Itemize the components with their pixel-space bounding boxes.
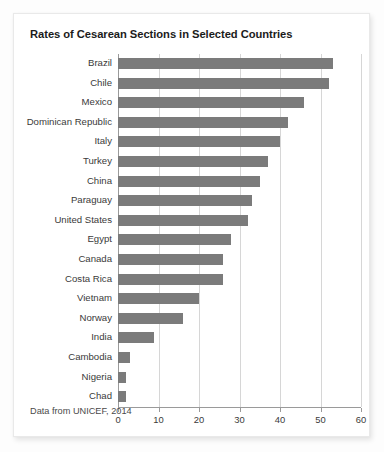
bar <box>118 293 199 304</box>
category-label: Canada <box>78 252 112 266</box>
bar <box>118 391 126 402</box>
x-tick-50 <box>321 408 322 412</box>
category-label: India <box>91 330 112 344</box>
x-tick-30 <box>240 408 241 412</box>
bar-row: Chad <box>118 387 361 407</box>
x-tick-label: 60 <box>356 414 366 425</box>
bar-row: Nigeria <box>118 368 361 388</box>
category-label: Mexico <box>82 95 112 109</box>
category-label: Chile <box>90 76 112 90</box>
bar <box>118 78 329 89</box>
bar-row: Mexico <box>118 93 361 113</box>
x-tick-10 <box>159 408 160 412</box>
bar <box>118 97 304 108</box>
bar-row: United States <box>118 211 361 231</box>
bar-row: Dominican Republic <box>118 113 361 133</box>
plot-area: BrazilChileMexicoDominican RepublicItaly… <box>118 54 361 409</box>
x-tick-60 <box>361 408 362 412</box>
gridline-60 <box>361 54 362 407</box>
category-label: United States <box>54 213 112 227</box>
bar-row: China <box>118 172 361 192</box>
source-note: Data from UNICEF, 2014 <box>30 406 132 416</box>
bar <box>118 176 260 187</box>
bar <box>118 156 268 167</box>
bar <box>118 58 333 69</box>
bar-row: Canada <box>118 250 361 270</box>
x-tick-40 <box>280 408 281 412</box>
category-label: Egypt <box>87 232 112 246</box>
page-title: Rates of Cesarean Sections in Selected C… <box>30 28 292 40</box>
bar-series: BrazilChileMexicoDominican RepublicItaly… <box>118 54 361 407</box>
bar <box>118 136 280 147</box>
category-label: Brazil <box>88 56 112 70</box>
category-label: Norway <box>79 311 112 325</box>
category-label: Nigeria <box>82 370 112 384</box>
bar-row: Chile <box>118 74 361 94</box>
bar-row: Cambodia <box>118 348 361 368</box>
x-tick-label: 30 <box>234 414 244 425</box>
bar-row: Turkey <box>118 152 361 172</box>
bar <box>118 372 126 383</box>
bar <box>118 195 252 206</box>
category-label: Paraguay <box>71 193 112 207</box>
bar <box>118 215 248 226</box>
page-root: Rates of Cesarean Sections in Selected C… <box>0 0 384 452</box>
bar-row: Costa Rica <box>118 270 361 290</box>
bar-row: India <box>118 328 361 348</box>
bar-row: Italy <box>118 132 361 152</box>
bar <box>118 274 223 285</box>
category-label: Cambodia <box>68 350 112 364</box>
bar <box>118 234 231 245</box>
category-label: Italy <box>94 134 112 148</box>
bar-row: Vietnam <box>118 289 361 309</box>
bar <box>118 352 130 363</box>
bar-row: Norway <box>118 309 361 329</box>
category-label: Vietnam <box>77 291 112 305</box>
x-tick-label: 50 <box>315 414 325 425</box>
category-label: Costa Rica <box>65 272 112 286</box>
bar <box>118 117 288 128</box>
x-tick-label: 20 <box>194 414 204 425</box>
x-tick-label: 40 <box>275 414 285 425</box>
x-tick-label: 10 <box>153 414 163 425</box>
bar <box>118 332 154 343</box>
bar-row: Egypt <box>118 230 361 250</box>
bar <box>118 313 183 324</box>
chart-card: Rates of Cesarean Sections in Selected C… <box>13 13 370 437</box>
category-label: Dominican Republic <box>27 115 112 129</box>
x-tick-20 <box>199 408 200 412</box>
category-label: China <box>87 174 112 188</box>
category-label: Chad <box>89 389 112 403</box>
category-label: Turkey <box>83 154 112 168</box>
bar <box>118 254 223 265</box>
bar-row: Paraguay <box>118 191 361 211</box>
bar-row: Brazil <box>118 54 361 74</box>
